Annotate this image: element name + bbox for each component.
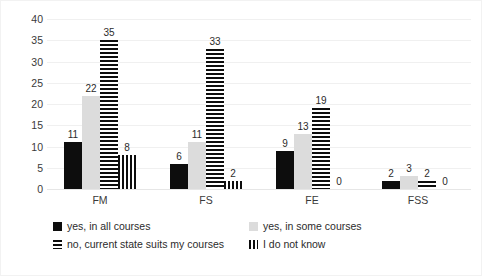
bar-slot: 11 xyxy=(188,19,206,189)
bar-group-fss: 2320 xyxy=(365,19,471,189)
bar-value-label: 33 xyxy=(209,37,220,47)
y-axis-tick-label: 0 xyxy=(7,184,43,195)
bar-value-label: 35 xyxy=(103,28,114,38)
bar-value-label: 19 xyxy=(315,96,326,106)
bar-slot: 33 xyxy=(206,19,224,189)
bar[interactable] xyxy=(224,181,242,190)
legend-swatch-icon xyxy=(53,240,62,249)
bar-value-label: 8 xyxy=(124,143,130,153)
y-axis-tick-label: 35 xyxy=(7,35,43,46)
bar-slot: 0 xyxy=(330,19,348,189)
bar-chart: 0510152025303540 11223586113329131902320… xyxy=(0,0,482,276)
chart-legend: yes, in all coursesyes, in some coursesn… xyxy=(53,219,445,251)
bar-slot: 3 xyxy=(400,19,418,189)
y-axis-tick-label: 5 xyxy=(7,163,43,174)
bar-slot: 13 xyxy=(294,19,312,189)
bar-value-label: 0 xyxy=(336,177,342,187)
legend-item-label: no, current state suits my courses xyxy=(67,237,224,251)
bar-slot: 2 xyxy=(418,19,436,189)
bar[interactable] xyxy=(100,40,118,189)
x-axis-tick-label: FS xyxy=(153,191,259,209)
bar-value-label: 11 xyxy=(192,130,202,140)
bar-slot: 0 xyxy=(436,19,454,189)
plot-area: 11223586113329131902320 xyxy=(47,19,471,189)
bar-value-label: 0 xyxy=(442,177,448,187)
legend-item[interactable]: yes, in some courses xyxy=(249,219,445,233)
bar-value-label: 22 xyxy=(85,84,96,94)
bar-value-label: 2 xyxy=(424,169,430,179)
y-axis-tick-label: 10 xyxy=(7,141,43,152)
legend-item[interactable]: yes, in all courses xyxy=(53,219,249,233)
bar-slot: 22 xyxy=(82,19,100,189)
x-axis-tick-label: FE xyxy=(259,191,365,209)
bar-group-fe: 913190 xyxy=(259,19,365,189)
bar-group-fs: 611332 xyxy=(153,19,259,189)
bar[interactable] xyxy=(276,151,294,189)
legend-swatch-icon xyxy=(249,240,258,249)
bar-slot: 2 xyxy=(224,19,242,189)
legend-swatch-icon xyxy=(53,222,62,231)
bar-slot: 2 xyxy=(382,19,400,189)
y-axis-tick-label: 40 xyxy=(7,14,43,25)
y-axis: 0510152025303540 xyxy=(1,19,43,189)
y-axis-tick-label: 30 xyxy=(7,56,43,67)
bar[interactable] xyxy=(118,155,136,189)
bar-slot: 6 xyxy=(170,19,188,189)
bar-slot: 8 xyxy=(118,19,136,189)
bar-slot: 9 xyxy=(276,19,294,189)
bar[interactable] xyxy=(82,96,100,190)
y-axis-tick-label: 25 xyxy=(7,78,43,89)
bar-group-fm: 1122358 xyxy=(47,19,153,189)
bar-value-label: 2 xyxy=(388,169,394,179)
bar-slot: 19 xyxy=(312,19,330,189)
x-axis: FMFSFEFSS xyxy=(47,191,471,209)
bar-groups: 11223586113329131902320 xyxy=(47,19,471,189)
bar-slot: 11 xyxy=(64,19,82,189)
bar[interactable] xyxy=(294,134,312,189)
bar-value-label: 2 xyxy=(230,169,236,179)
bar-value-label: 9 xyxy=(282,139,288,149)
bar-value-label: 3 xyxy=(406,164,412,174)
bar[interactable] xyxy=(206,49,224,189)
legend-item-label: yes, in some courses xyxy=(263,219,362,233)
bar-slot: 35 xyxy=(100,19,118,189)
bar[interactable] xyxy=(400,176,418,189)
legend-item[interactable]: I do not know xyxy=(249,237,445,251)
x-axis-tick-label: FSS xyxy=(365,191,471,209)
x-axis-tick-label: FM xyxy=(47,191,153,209)
bar[interactable] xyxy=(188,142,206,189)
y-axis-tick-label: 20 xyxy=(7,99,43,110)
bar[interactable] xyxy=(170,164,188,190)
legend-item-label: yes, in all courses xyxy=(67,219,150,233)
bar-value-label: 13 xyxy=(297,122,308,132)
legend-item[interactable]: no, current state suits my courses xyxy=(53,237,249,251)
bar[interactable] xyxy=(382,181,400,190)
y-axis-tick-label: 15 xyxy=(7,120,43,131)
gridline xyxy=(47,189,471,190)
legend-swatch-icon xyxy=(249,222,258,231)
bar[interactable] xyxy=(418,181,436,190)
legend-item-label: I do not know xyxy=(263,237,325,251)
bar-value-label: 6 xyxy=(176,152,182,162)
bar[interactable] xyxy=(312,108,330,189)
bar-value-label: 11 xyxy=(68,130,78,140)
bar[interactable] xyxy=(64,142,82,189)
